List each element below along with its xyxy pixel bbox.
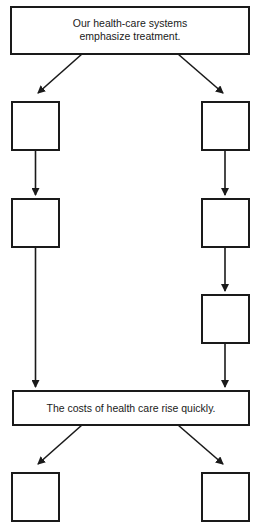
top-cause-box: Our health-care systems emphasize treatm… [10,6,250,55]
left-chain-box-2 [11,198,60,248]
right-chain-box-1 [201,101,250,151]
connector-arrows [0,0,260,531]
right-chain-box-3 [201,294,250,344]
middle-box-text: The costs of health care rise quickly. [14,402,248,415]
middle-effect-box: The costs of health care rise quickly. [12,390,250,426]
right-chain-box-2 [201,198,250,248]
bottom-left-box [11,472,60,522]
left-chain-box-1 [11,101,60,151]
top-box-line1: Our health-care systems [12,17,248,30]
bottom-right-box [201,472,250,522]
top-box-line2: emphasize treatment. [12,30,248,43]
